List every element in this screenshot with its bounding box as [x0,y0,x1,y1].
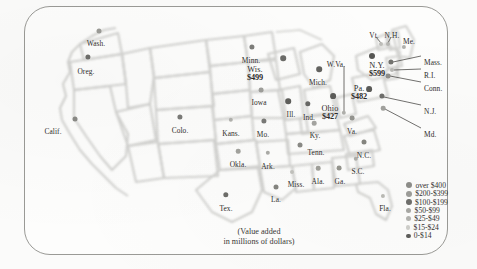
state-label-colo: Colo. [172,127,189,135]
state-name-w-va: W.Va. [327,61,345,69]
state-label-calif: Calif. [44,128,61,136]
state-name-ark: Ark. [261,163,275,171]
state-label-wis: Wis.$499 [247,66,263,82]
state-dot-miss [290,170,294,174]
state-dot-iowa [259,88,264,93]
state-name-oreg: Oreg. [77,68,94,76]
state-label-ky: Ky. [310,132,321,140]
state-dot-va [350,116,355,121]
state-label-kans: Kans. [222,130,240,138]
state-label-n-j: N.J. [424,108,436,116]
state-label-miss: Miss. [288,181,305,189]
legend-swatch-4 [406,216,411,221]
legend-swatch-3 [406,208,411,213]
state-label-s-c: S.C. [351,168,364,176]
state-dot-tenn [298,143,303,148]
state-label-r-i: R.I. [424,72,436,80]
state-label-md: Md. [424,131,436,139]
state-name-me: Me. [403,38,415,46]
state-label-n-y: N.Y.$599 [369,62,385,78]
state-name-fla: Fla. [379,205,391,213]
state-dot-mich [316,66,322,72]
state-name-md: Md. [424,131,436,139]
state-name-la: La. [271,196,281,204]
leader-ri [394,69,421,70]
state-label-wash: Wash. [87,40,106,48]
state-value-n-y: $599 [369,70,385,78]
state-name-tenn: Tenn. [307,149,324,157]
state-name-conn: Conn. [424,85,442,93]
state-dot-vt [379,42,383,46]
state-label-mich: Mich. [309,79,327,87]
state-value-wis: $499 [247,74,263,82]
legend-item-5: $15-$24 [406,223,472,231]
state-value-ohio: $427 [322,113,339,121]
legend-item-2: $100-$199 [406,198,472,206]
state-label-mass: Mass. [424,59,442,67]
state-dot-ky [312,121,317,126]
state-name-ala: Ala. [312,178,325,186]
state-label-ohio: Ohio$427 [322,105,339,121]
legend-item-3: $50-$99 [406,206,472,214]
leader-conn [390,76,421,82]
state-label-ill: Ill. [287,111,296,119]
state-name-mass: Mass. [424,59,442,67]
legend-swatch-2 [406,199,412,205]
state-dot-conn [386,74,391,79]
state-name-r-i: R.I. [424,72,436,80]
map-caption: (Value added in millions of dollars) [223,227,294,248]
state-dot-md [381,106,386,111]
state-label-n-c: N.C. [357,152,371,160]
state-dot-ga [337,166,342,171]
map-figure: Wash.Oreg.Calif.Colo.Kans.Minn.Wis.$499I… [0,0,477,269]
state-dot-ohio [330,93,336,99]
state-label-tenn: Tenn. [307,149,324,157]
state-name-tex: Tex. [219,205,232,213]
state-dot-ala [316,166,321,171]
state-label-conn: Conn. [424,85,442,93]
state-name-miss: Miss. [288,181,305,189]
legend-swatch-5 [406,225,410,229]
state-dot-wis [280,55,286,61]
state-label-la: La. [271,196,281,204]
legend-item-4: $25-$49 [406,215,472,223]
state-label-mo: Mo. [257,131,269,139]
state-name-calif: Calif. [44,128,61,136]
leader-nj [384,97,421,105]
state-name-n-c: N.C. [357,152,371,160]
leader-mass [393,56,421,62]
state-name-iowa: Iowa [251,99,266,107]
leader-md [385,109,421,128]
state-name-okla: Okla. [230,161,247,169]
state-value-pa: $482 [351,93,367,101]
state-dot-okla [236,149,241,154]
state-label-iowa: Iowa [251,99,266,107]
state-dot-n-h [386,42,390,46]
state-name-minn: Minn. [242,57,260,65]
legend-item-6: 0-$14 [406,232,472,240]
state-name-ill: Ill. [287,111,296,119]
state-name-ky: Ky. [310,132,321,140]
caption-line-1: (Value added [238,227,281,236]
state-label-va: Va. [347,128,357,136]
state-label-fla: Fla. [379,205,391,213]
state-label-ga: Ga. [335,178,346,186]
state-name-va: Va. [347,128,357,136]
state-dot-la [274,185,279,190]
legend: over $400$200-$399$100-$199$50-$99$25-$4… [406,181,472,240]
state-dot-r-i [390,68,394,72]
state-name-n-j: N.J. [424,108,436,116]
state-dot-calif [73,117,78,122]
state-name-mich: Mich. [309,79,327,87]
state-label-okla: Okla. [230,161,247,169]
state-label-oreg: Oreg. [77,68,94,76]
legend-swatch-0 [406,182,412,188]
legend-swatch-1 [406,191,412,197]
state-label-vt: Vt. [369,32,379,40]
state-label-ala: Ala. [312,178,325,186]
state-label-tex: Tex. [219,205,232,213]
state-label-me: Me. [403,38,415,46]
state-dot-wash [97,29,102,34]
legend-item-1: $200-$399 [406,189,472,197]
state-name-mo: Mo. [257,131,269,139]
